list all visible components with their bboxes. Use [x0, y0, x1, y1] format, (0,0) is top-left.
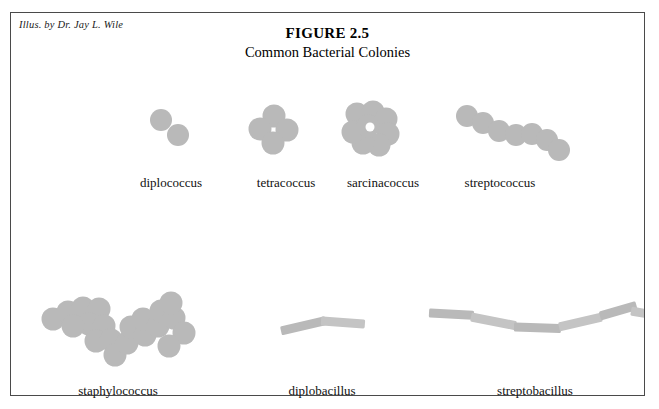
coccus-cell: [167, 124, 189, 146]
coccus-cell: [160, 292, 183, 315]
bacillus-rod: [558, 313, 603, 332]
coccus-cell: [150, 109, 172, 131]
colony-staphylococcus: [42, 292, 196, 367]
bacillus-rod: [429, 309, 474, 320]
colony-label-streptococcus: streptococcus: [465, 175, 536, 191]
colony-label-tetracoccus: tetracoccus: [257, 175, 315, 191]
colony-streptococcus: [456, 105, 570, 161]
colony-diplobacillus: [280, 316, 365, 335]
colony-center-gap: [366, 123, 375, 132]
coccus-cell: [158, 335, 181, 358]
colony-label-streptobacillus: streptobacillus: [497, 383, 573, 399]
coccus-cell: [548, 139, 570, 161]
colony-diplococcus: [150, 109, 189, 146]
colony-label-diplococcus: diplococcus: [140, 175, 202, 191]
figure-border: Illus. by Dr. Jay L. Wile FIGURE 2.5 Com…: [10, 12, 645, 396]
colony-label-sarcinacoccus: sarcinacoccus: [347, 175, 419, 191]
colony-sarcinacoccus: [342, 101, 400, 157]
colony-tetracoccus: [249, 105, 299, 155]
colony-streptobacillus: [429, 301, 644, 333]
coccus-cell: [62, 315, 85, 338]
bacteria-colony-diagram: [11, 13, 644, 395]
colony-label-staphylococcus: staphylococcus: [78, 383, 157, 399]
colony-label-diplobacillus: diplobacillus: [288, 383, 355, 399]
bacillus-rod: [470, 313, 517, 331]
bacillus-rod: [514, 323, 561, 334]
bacillus-rod: [280, 316, 327, 335]
coccus-cell: [262, 132, 285, 155]
bacillus-rod: [321, 317, 366, 329]
bacillus-rod: [630, 307, 644, 322]
